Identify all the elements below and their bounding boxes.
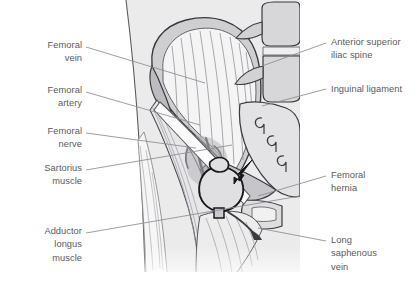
label-inguinal-ligament: Inguinal ligament: [331, 83, 402, 96]
label-adductor-longus-muscle: Adductor longus muscle: [44, 225, 82, 265]
panel-bottom-fade: [124, 180, 300, 286]
label-femoral-hernia: Femoral hernia: [331, 169, 365, 196]
label-sartorius-muscle: Sartorius muscle: [44, 162, 82, 189]
illustration-panel: [124, 0, 300, 286]
label-anterior-superior-iliac-spine: Anterior superior iliac spine: [331, 36, 401, 63]
label-long-saphenous-vein: Long saphenous vein: [331, 234, 377, 274]
label-femoral-nerve: Femoral nerve: [48, 125, 82, 152]
femoral-hernia-figure: Femoral vein Femoral artery Femoral nerv…: [0, 0, 417, 286]
label-femoral-artery: Femoral artery: [48, 84, 82, 111]
label-femoral-vein: Femoral vein: [48, 39, 82, 66]
